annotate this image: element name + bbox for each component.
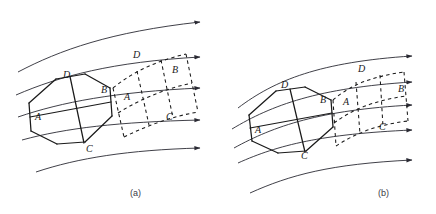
corner-label-c-solid: C: [301, 150, 308, 161]
fluid-deformation-figure: A B C D A B C D (a): [0, 0, 436, 214]
corner-label-c-dashed: C: [379, 121, 386, 132]
figure-background: [0, 0, 436, 214]
corner-label-d-solid: D: [62, 69, 71, 80]
corner-label-c-solid: C: [86, 143, 93, 154]
corner-label-b-solid: B: [320, 94, 326, 105]
corner-label-b-dashed: B: [398, 83, 404, 94]
panel-a-caption: (a): [130, 188, 141, 198]
corner-label-a-solid: A: [254, 124, 262, 135]
corner-label-b-solid: B: [101, 84, 107, 95]
panel-b-caption: (b): [378, 188, 389, 198]
corner-label-a-dashed: A: [123, 91, 131, 102]
corner-label-a-solid: A: [34, 111, 42, 122]
corner-label-a-dashed: A: [342, 96, 350, 107]
corner-label-d-dashed: D: [357, 63, 366, 74]
corner-label-c-dashed: C: [166, 111, 173, 122]
corner-label-b-dashed: B: [172, 64, 178, 75]
corner-label-d-dashed: D: [132, 49, 141, 60]
corner-label-d-solid: D: [280, 79, 289, 90]
